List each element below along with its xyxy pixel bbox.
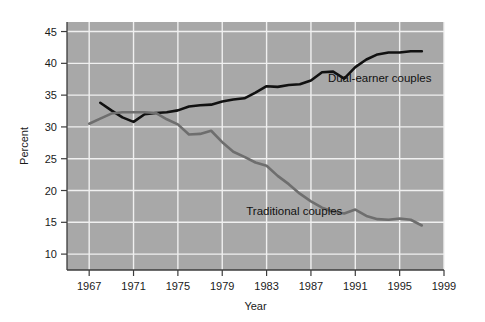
y-axis-title: Percent [18, 127, 30, 165]
series-label: Dual-earner couples [328, 72, 432, 84]
tick-label-x: 1995 [387, 280, 411, 292]
tick-label-y: 30 [45, 121, 57, 133]
tick-label-y: 45 [45, 26, 57, 38]
tick-label-x: 1975 [166, 280, 190, 292]
tick-label-y: 35 [45, 89, 57, 101]
tick-label-x: 1971 [121, 280, 145, 292]
tick-label-y: 20 [45, 185, 57, 197]
tick-label-y: 40 [45, 57, 57, 69]
tick-label-x: 1991 [343, 280, 367, 292]
tick-label-x: 1983 [254, 280, 278, 292]
tick-label-y: 10 [45, 248, 57, 260]
chart-canvas: 1015202530354045 19671971197519791983198… [0, 0, 485, 322]
series-label: Traditional couples [246, 205, 342, 217]
tick-label-x: 1987 [299, 280, 323, 292]
line-chart: 1015202530354045 19671971197519791983198… [0, 0, 485, 322]
tick-label-y: 15 [45, 216, 57, 228]
x-axis-title: Year [244, 300, 267, 312]
tick-label-x: 1979 [210, 280, 234, 292]
plot-area-background [67, 22, 444, 270]
x-axis-tick-labels: 196719711975197919831987199119951999 [77, 280, 456, 292]
tick-label-y: 25 [45, 153, 57, 165]
tick-label-x: 1967 [77, 280, 101, 292]
tick-label-x: 1999 [432, 280, 456, 292]
